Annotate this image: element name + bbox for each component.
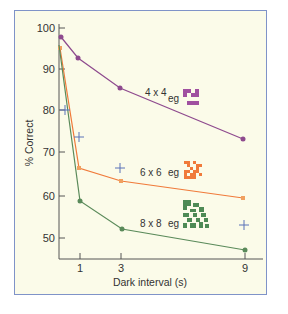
svg-text:9: 9	[242, 262, 248, 274]
label-4x4: 4 x 4	[145, 87, 167, 98]
x-ticks	[80, 253, 245, 259]
y-axis-title: % Correct	[23, 120, 35, 167]
svg-text:3: 3	[118, 262, 124, 274]
svg-text:90: 90	[43, 63, 55, 75]
pattern-6x6-icon	[184, 161, 202, 179]
pattern-8x8-icon	[183, 200, 209, 228]
label-8x8: 8 x 8	[140, 218, 162, 229]
pattern-4x4-icon	[183, 89, 199, 105]
svg-text:80: 80	[43, 104, 55, 116]
y-tick-labels: 100 90 80 70 60 50	[37, 22, 55, 244]
svg-text:60: 60	[43, 190, 55, 202]
svg-text:100: 100	[37, 22, 55, 34]
x-tick-labels: 1 3 9	[77, 262, 248, 274]
eg-8x8: eg	[168, 218, 179, 229]
svg-text:50: 50	[43, 232, 55, 244]
label-6x6: 6 x 6	[140, 167, 162, 178]
svg-text:70: 70	[43, 146, 55, 158]
svg-text:1: 1	[77, 262, 83, 274]
eg-4x4: eg	[168, 93, 179, 104]
eg-6x6: eg	[168, 167, 179, 178]
x-axis-title: Dark interval (s)	[113, 276, 187, 288]
line-chart: 100 90 80 70 60 50 1 3 9 Dark interval (…	[0, 0, 288, 314]
